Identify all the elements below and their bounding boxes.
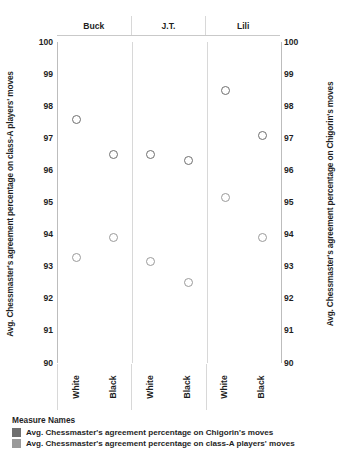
data-point[interactable]: [184, 156, 193, 165]
x-tick-label: Black: [182, 376, 192, 399]
y-axis-right-ticks: 10099989796959493929190: [284, 0, 310, 468]
panel-header-band: Buck J.T. Lili: [57, 16, 280, 36]
data-point[interactable]: [146, 150, 155, 159]
y-tick-left-91: 91: [27, 326, 53, 335]
legend-swatch-chigorin: [12, 428, 21, 437]
x-tick-label: Black: [256, 376, 266, 399]
x-axis-labels: WhiteBlackWhiteBlackWhiteBlack: [57, 364, 280, 410]
y-tick-right-96: 96: [284, 166, 310, 175]
data-point[interactable]: [221, 193, 230, 202]
y-tick-right-100: 100: [284, 38, 310, 47]
data-point[interactable]: [221, 86, 230, 95]
x-tick-label: White: [71, 375, 81, 398]
x-tick-black-5: Black: [243, 364, 280, 410]
panel-header-buck: Buck: [57, 16, 132, 35]
y-tick-left-96: 96: [27, 166, 53, 175]
legend-label-classa: Avg. Chessmaster's agreement percentage …: [26, 439, 295, 448]
data-point[interactable]: [258, 233, 267, 242]
data-point[interactable]: [109, 150, 118, 159]
data-point[interactable]: [258, 131, 267, 140]
panel-divider: [207, 42, 208, 363]
x-tick-label: White: [145, 375, 155, 398]
x-tick-white-0: White: [57, 364, 94, 410]
x-axis-divider: [131, 364, 132, 410]
y-tick-right-93: 93: [284, 262, 310, 271]
y-axis-title-left: Avg. Chessmaster's agreement percentage …: [5, 41, 15, 367]
x-tick-label: White: [219, 375, 229, 398]
y-tick-right-94: 94: [284, 230, 310, 239]
y-axis-title-right: Avg. Chessmaster's agreement percentage …: [325, 41, 335, 367]
y-tick-left-95: 95: [27, 198, 53, 207]
legend: Measure Names Avg. Chessmaster's agreeme…: [12, 415, 330, 450]
x-axis-divider: [206, 364, 207, 410]
y-tick-left-100: 100: [27, 38, 53, 47]
legend-title: Measure Names: [12, 415, 330, 425]
y-tick-right-91: 91: [284, 326, 310, 335]
y-tick-left-94: 94: [27, 230, 53, 239]
panel-header-lili: Lili: [206, 16, 280, 35]
y-tick-left-93: 93: [27, 262, 53, 271]
y-tick-left-92: 92: [27, 294, 53, 303]
y-axis-left-ticks: 10099989796959493929190: [27, 0, 53, 468]
x-axis-divider: [57, 364, 58, 410]
y-tick-left-97: 97: [27, 134, 53, 143]
y-tick-left-99: 99: [27, 70, 53, 79]
x-tick-black-3: Black: [169, 364, 206, 410]
data-point[interactable]: [146, 257, 155, 266]
chart-container: Avg. Chessmaster's agreement percentage …: [0, 0, 337, 468]
data-point[interactable]: [184, 278, 193, 287]
plot-area: [57, 42, 282, 363]
legend-item-chigorin[interactable]: Avg. Chessmaster's agreement percentage …: [12, 428, 330, 437]
y-tick-right-99: 99: [284, 70, 310, 79]
y-tick-right-97: 97: [284, 134, 310, 143]
x-tick-black-1: Black: [94, 364, 131, 410]
y-tick-right-95: 95: [284, 198, 310, 207]
legend-item-classa[interactable]: Avg. Chessmaster's agreement percentage …: [12, 439, 330, 448]
y-tick-right-98: 98: [284, 102, 310, 111]
legend-label-chigorin: Avg. Chessmaster's agreement percentage …: [26, 428, 273, 437]
x-tick-label: Black: [108, 376, 118, 399]
data-point[interactable]: [72, 253, 81, 262]
y-tick-left-90: 90: [27, 359, 53, 368]
y-tick-left-98: 98: [27, 102, 53, 111]
x-tick-white-2: White: [131, 364, 168, 410]
panel-header-jt: J.T.: [132, 16, 207, 35]
legend-swatch-classa: [12, 439, 21, 448]
data-point[interactable]: [109, 233, 118, 242]
x-tick-white-4: White: [206, 364, 243, 410]
y-tick-right-90: 90: [284, 359, 310, 368]
data-point[interactable]: [72, 115, 81, 124]
panel-divider: [132, 42, 133, 363]
y-tick-right-92: 92: [284, 294, 310, 303]
